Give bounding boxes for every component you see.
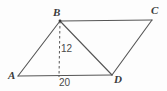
vertex-point-B — [59, 20, 62, 23]
vertex-label-b: B — [53, 7, 60, 18]
figure-canvas — [0, 0, 167, 91]
height-measurement-label: 12 — [61, 44, 72, 54]
vertex-label-d: D — [114, 74, 122, 85]
geometry-figure: B C A D 12 20 — [0, 0, 167, 91]
vertex-label-a: A — [8, 70, 15, 81]
side-BC — [60, 20, 152, 21]
vertex-label-c: C — [151, 5, 158, 16]
base-measurement-label: 20 — [59, 78, 70, 88]
altitude-dashed-line — [59, 21, 60, 77]
side-CD — [112, 20, 152, 75]
side-AB — [18, 21, 60, 76]
side-DA — [18, 75, 112, 76]
